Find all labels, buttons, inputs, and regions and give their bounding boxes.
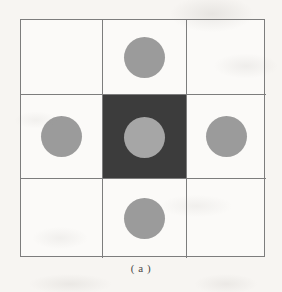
- grid-cell-r3c3: [187, 179, 266, 258]
- grid-3x3: [20, 19, 265, 257]
- dot-top-center: [124, 37, 165, 78]
- dot-bottom-center: [124, 198, 165, 239]
- grid-cell-r3c1: [21, 179, 103, 258]
- figure-panel: [20, 19, 265, 257]
- dot-center: [124, 117, 165, 158]
- grid-cell-r1c3: [187, 20, 266, 95]
- grid-cell-r1c2: [103, 20, 187, 95]
- grid-cell-r2c2-filled: [103, 95, 187, 179]
- grid-cell-r2c1: [21, 95, 103, 179]
- dot-middle-left: [41, 116, 82, 157]
- grid-cell-r1c1: [21, 20, 103, 95]
- figure-caption: ( a ): [0, 262, 282, 274]
- grid-cell-r2c3: [187, 95, 266, 179]
- grid-cell-r3c2: [103, 179, 187, 258]
- dot-middle-right: [206, 116, 247, 157]
